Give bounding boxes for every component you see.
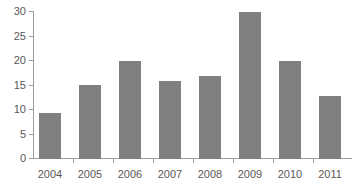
x-axis-label-2010: 2010	[278, 168, 302, 180]
bar-2004	[39, 113, 61, 158]
bar-2007	[159, 81, 181, 158]
y-axis-label-30: 30	[14, 5, 26, 17]
bar-2010	[279, 61, 301, 159]
x-axis-label-2005: 2005	[78, 168, 102, 180]
x-axis-label-2011: 2011	[318, 168, 342, 180]
y-axis-label-15: 15	[14, 79, 26, 91]
bar-chart: 30 25 20 15 10 5 0	[0, 0, 358, 190]
bar-2008	[199, 76, 221, 159]
bar-2005	[79, 85, 101, 159]
x-axis-label-2006: 2006	[118, 168, 142, 180]
chart-canvas: 30 25 20 15 10 5 0	[0, 0, 358, 190]
bar-2009	[239, 12, 261, 159]
x-axis-label-2004: 2004	[38, 168, 62, 180]
y-axis-label-10: 10	[14, 103, 26, 115]
x-axis-label-2007: 2007	[158, 168, 182, 180]
bar-2011	[319, 96, 341, 158]
x-axis-label-2008: 2008	[198, 168, 222, 180]
y-axis-label-5: 5	[20, 128, 26, 140]
y-axis-label-0: 0	[20, 152, 26, 164]
bar-2006	[119, 61, 141, 159]
x-axis-label-2009: 2009	[238, 168, 262, 180]
y-axis-label-25: 25	[14, 30, 26, 42]
y-axis-label-20: 20	[14, 54, 26, 66]
